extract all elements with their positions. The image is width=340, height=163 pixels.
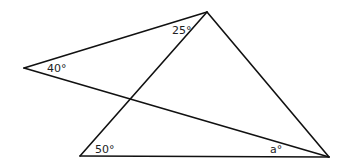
angle-label-bottom-right: a° xyxy=(270,144,282,155)
angle-label-top: 25° xyxy=(172,25,192,36)
diagram-lines xyxy=(0,0,340,163)
angle-label-left: 40° xyxy=(47,63,67,74)
segment-left-bottom-right xyxy=(24,68,329,157)
angle-label-bottom-left: 50° xyxy=(95,144,115,155)
segment-apex-bottom-right xyxy=(207,12,329,157)
segment-bottom xyxy=(80,156,329,157)
triangle-diagram: 25° 40° 50° a° xyxy=(0,0,340,163)
segment-left-apex xyxy=(24,12,207,68)
